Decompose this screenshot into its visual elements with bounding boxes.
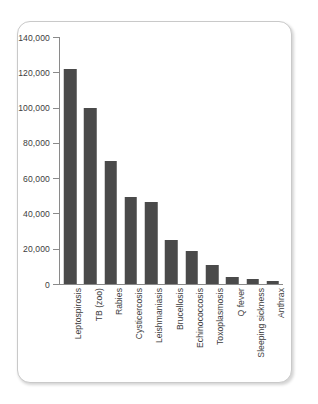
- y-tick-4: 80,000: [53, 143, 59, 144]
- bar-slot: [222, 37, 242, 284]
- bar[interactable]: [226, 277, 239, 284]
- x-axis-label: Toxoplasmosis: [215, 288, 225, 345]
- x-axis-label: TB (zoo): [94, 288, 104, 321]
- bar[interactable]: [186, 251, 199, 284]
- bar-slot: [161, 37, 181, 284]
- bar-slot: [242, 37, 262, 284]
- bar[interactable]: [104, 161, 117, 285]
- chart-card: 020,00040,00060,00080,000100,000120,0001…: [17, 21, 292, 383]
- x-axis-label: Q fever: [236, 288, 246, 317]
- bars-group: [60, 37, 283, 284]
- y-tick-label: 0: [45, 280, 50, 290]
- bar-slot: [80, 37, 100, 284]
- bar-chart: 020,00040,00060,00080,000100,000120,0001…: [18, 22, 293, 384]
- bar-slot: [101, 37, 121, 284]
- y-tick-0: 0: [53, 284, 59, 285]
- y-tick-label: 60,000: [23, 174, 50, 184]
- y-tick-label: 140,000: [18, 33, 50, 43]
- x-axis-label: Rabies: [114, 288, 124, 315]
- y-tick-label: 120,000: [18, 68, 50, 78]
- x-axis-label: Sleeping sickness: [256, 288, 266, 358]
- x-axis-label: Anthrax: [276, 288, 286, 318]
- x-axis-label: Leptospirosis: [73, 288, 83, 339]
- y-tick-2: 40,000: [53, 213, 59, 214]
- bar-slot: [121, 37, 141, 284]
- y-tick-5: 100,000: [53, 108, 59, 109]
- bar-slot: [202, 37, 222, 284]
- y-tick-3: 60,000: [53, 178, 59, 179]
- x-axis-label: Leishmaniasis: [154, 288, 164, 343]
- x-axis-labels: LeptospirosisTB (zoo)RabiesCysticercosis…: [60, 288, 283, 380]
- y-tick-6: 120,000: [53, 72, 59, 73]
- x-axis-line: [59, 284, 283, 285]
- bar[interactable]: [145, 202, 158, 284]
- y-tick-label: 20,000: [23, 244, 50, 254]
- y-tick-1: 20,000: [53, 249, 59, 250]
- x-axis-label: Echinococcosis: [195, 288, 205, 348]
- x-axis-label: Cysticercosis: [134, 288, 144, 339]
- bar-slot: [263, 37, 283, 284]
- y-tick-7: 140,000: [53, 37, 59, 38]
- bar[interactable]: [84, 108, 97, 284]
- bar-slot: [182, 37, 202, 284]
- y-tick-label: 40,000: [23, 209, 50, 219]
- x-axis-label: Brucellosis: [175, 288, 185, 330]
- bar[interactable]: [206, 265, 219, 284]
- bar[interactable]: [64, 69, 77, 284]
- bar[interactable]: [267, 281, 280, 284]
- bar[interactable]: [125, 197, 138, 284]
- y-tick-label: 80,000: [23, 138, 50, 148]
- bar-slot: [60, 37, 80, 284]
- bar[interactable]: [165, 240, 178, 284]
- y-tick-label: 100,000: [18, 103, 50, 113]
- bar-slot: [141, 37, 161, 284]
- bar[interactable]: [246, 279, 259, 284]
